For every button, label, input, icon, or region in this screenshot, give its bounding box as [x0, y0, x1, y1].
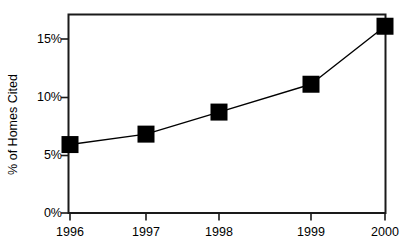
data-point-marker	[303, 76, 320, 93]
y-axis-ticks	[61, 39, 69, 213]
x-axis-ticks	[70, 213, 385, 221]
data-point-marker	[377, 18, 394, 35]
data-series-markers	[62, 18, 394, 153]
data-point-marker	[211, 104, 228, 121]
plot-area	[0, 0, 413, 249]
line-chart: % of Homes Cited 15% 10% 5% 0% 1996 1997…	[0, 0, 413, 249]
data-series-line	[70, 26, 385, 144]
data-point-marker	[62, 136, 79, 153]
data-point-marker	[138, 126, 155, 143]
